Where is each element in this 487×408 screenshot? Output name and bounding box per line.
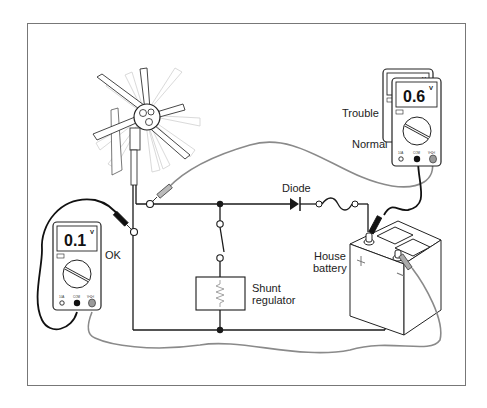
diode-label: Diode (282, 182, 311, 194)
switch-contact-top (217, 221, 223, 227)
ok-label: OK (105, 249, 122, 261)
circuit-diagram: Diode Shunt regulator House battery OK T… (0, 0, 487, 408)
multimeter-normal: 0.6 V 10A COM V•Ω•I (392, 78, 441, 166)
multimeter-ok: 0.1 V 10A COM V•Ω•I (53, 222, 101, 310)
shunt-regulator-label-line2: regulator (252, 294, 296, 306)
test-point-gen-positive (147, 201, 154, 208)
meter-reading-normal: 0.6 (403, 88, 425, 105)
jack-label-10a: 10A (59, 295, 64, 299)
meter-unit-normal: V (429, 85, 433, 91)
house-battery-label-line2: battery (313, 262, 347, 274)
fuse-terminal-right (352, 201, 358, 207)
house-battery-label-line1: House (314, 250, 346, 262)
normal-label: Normal (352, 138, 387, 150)
jack-label-com: COM (413, 151, 421, 155)
jack-label-v: V•Ω•I (428, 151, 435, 155)
switch-contact-bottom (217, 255, 223, 261)
jack-label-10a: 10A (398, 151, 403, 155)
meter-unit-ok: V (90, 229, 94, 235)
test-point-gen-negative (131, 229, 138, 236)
trouble-label: Trouble (342, 107, 379, 119)
shunt-regulator (196, 277, 245, 310)
junction-bottom (217, 327, 223, 333)
fuse-terminal-left (316, 201, 322, 207)
junction-top (217, 201, 223, 207)
shunt-regulator-label-line1: Shunt (252, 282, 281, 294)
jack-label-com: COM (73, 295, 81, 299)
meter-reading-ok: 0.1 (64, 232, 86, 249)
jack-label-v: V•Ω•I (87, 295, 94, 299)
house-battery-icon (350, 221, 441, 335)
